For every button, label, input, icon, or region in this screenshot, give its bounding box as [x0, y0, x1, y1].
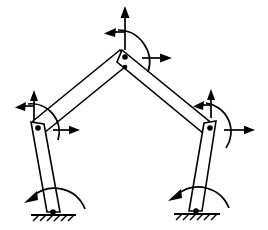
right-knee-force-left-arrow	[193, 101, 211, 110]
upper-right-link-body	[117, 50, 209, 133]
right-knee-joint-dot	[207, 125, 213, 131]
right-base-pivot-dot	[193, 208, 199, 214]
left-knee-joint-dot	[35, 125, 41, 131]
apex-force-right-arrow	[142, 54, 172, 63]
left-ground-support	[31, 215, 76, 221]
right-knee-force-right-arrow	[224, 126, 255, 135]
left-base-moment-arrowhead	[24, 191, 38, 203]
right-ground-support	[174, 214, 220, 220]
apex-force-left-arrow	[104, 28, 125, 37]
apex-force-up-arrow	[121, 6, 130, 50]
left-knee-force-right-arrow	[53, 126, 80, 135]
left-base-pivot-dot	[50, 209, 56, 215]
lower-right-link-body	[189, 121, 216, 211]
upper-right-link	[117, 50, 209, 133]
lower-right-link	[189, 121, 216, 211]
right-base-moment-arrowhead	[168, 189, 182, 201]
apex-joint-dot	[122, 54, 128, 60]
mechanism-diagram-canvas	[0, 0, 268, 230]
mechanism-figure	[0, 0, 268, 230]
apex-joint-dot-lower	[123, 65, 128, 70]
